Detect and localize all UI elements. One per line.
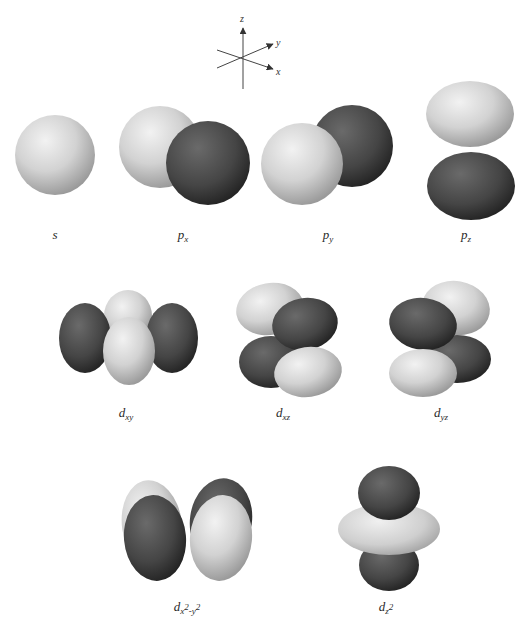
orbital-pz xyxy=(426,81,515,220)
label-pz: pz xyxy=(461,228,471,244)
label-dyz: dyz xyxy=(434,406,448,422)
orbital-dxz xyxy=(232,277,345,401)
axis-label-y: y xyxy=(276,38,280,48)
axis-label-z: z xyxy=(240,14,244,24)
label-dxz: dxz xyxy=(276,406,290,422)
coordinate-axes-icon xyxy=(217,28,273,89)
label-s: s xyxy=(52,228,57,241)
label-dxy: dxy xyxy=(119,406,134,422)
label-dx2-y2: dx2-y2 xyxy=(174,600,201,616)
orbital-s xyxy=(15,115,95,195)
orbital-px xyxy=(119,106,250,205)
orbital-dz2 xyxy=(338,466,440,591)
orbital-py xyxy=(261,105,393,205)
label-px: px xyxy=(178,228,189,244)
orbital-dx2-y2 xyxy=(116,474,258,583)
axis-label-x: x xyxy=(276,67,280,77)
orbital-dyz xyxy=(386,276,494,397)
orbital-figure xyxy=(0,0,528,623)
label-dz2: dz2 xyxy=(379,600,394,616)
orbital-dxy xyxy=(59,290,198,385)
label-py: py xyxy=(323,228,334,244)
